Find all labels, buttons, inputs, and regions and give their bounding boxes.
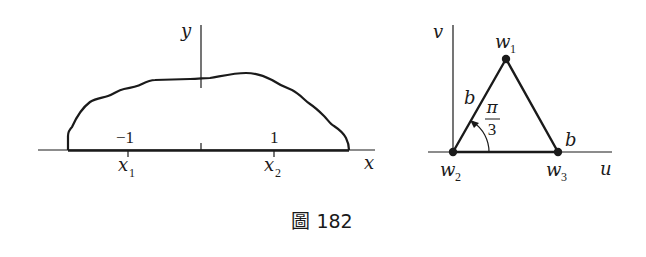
svg-text:w: w <box>495 31 511 52</box>
w2-label: w 2 <box>440 159 461 184</box>
x-axis-label: x <box>364 152 374 173</box>
svg-text:1: 1 <box>510 42 516 56</box>
vertex-w1-dot <box>502 55 510 63</box>
side-label-b-left: b <box>464 87 476 108</box>
svg-text:2: 2 <box>275 166 281 180</box>
y-axis-label: y <box>180 20 192 41</box>
w3-label: w 3 <box>546 159 567 184</box>
tick-label-one: 1 <box>270 128 279 147</box>
angle-label: π 3 <box>485 97 500 139</box>
svg-text:x: x <box>264 154 274 175</box>
figure-canvas: y x −1 1 x 1 x 2 v u w 1 <box>0 0 646 257</box>
left-figure: y x −1 1 x 1 x 2 <box>38 20 375 180</box>
v-axis-label: v <box>433 21 443 42</box>
tick-label-neg-one: −1 <box>116 128 134 147</box>
side-label-b-right: b <box>565 129 577 150</box>
svg-text:1: 1 <box>129 166 135 180</box>
w1-label: w 1 <box>495 31 516 56</box>
svg-text:2: 2 <box>455 170 461 184</box>
figure-caption: 圖 182 <box>291 210 352 232</box>
boundary-curve <box>68 73 349 150</box>
x2-label: x 2 <box>264 154 281 180</box>
svg-text:w: w <box>546 159 562 180</box>
vertex-w2-dot <box>449 148 457 156</box>
right-figure: v u w 1 w 2 w 3 b b π 3 <box>428 21 612 184</box>
svg-text:x: x <box>118 154 128 175</box>
angle-arrowhead-icon <box>470 120 479 128</box>
angle-label-denominator: 3 <box>488 120 497 139</box>
svg-text:w: w <box>440 159 456 180</box>
u-axis-label: u <box>600 158 612 179</box>
x1-label: x 1 <box>118 154 135 180</box>
svg-text:3: 3 <box>561 170 567 184</box>
vertex-w3-dot <box>554 148 562 156</box>
angle-label-numerator: π <box>485 97 498 117</box>
